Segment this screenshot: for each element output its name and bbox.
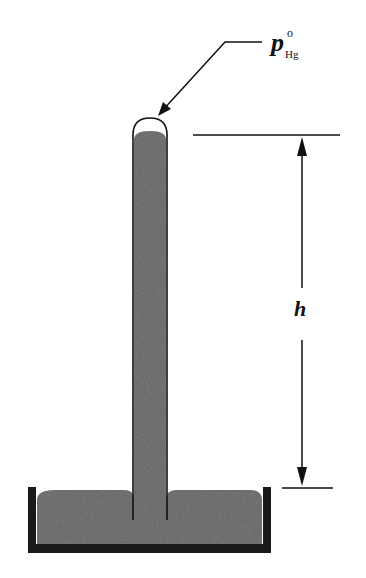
tube-mercury-column xyxy=(134,131,166,520)
pressure-subscript: Hg xyxy=(285,48,298,60)
height-label: h xyxy=(293,294,307,324)
pressure-superscript: o xyxy=(287,26,293,41)
arrow-up-icon xyxy=(297,137,307,156)
barometer-diagram xyxy=(0,0,366,578)
pressure-label: p xyxy=(271,30,284,56)
arrow-down-icon xyxy=(297,467,307,486)
pointer-line xyxy=(162,42,262,111)
